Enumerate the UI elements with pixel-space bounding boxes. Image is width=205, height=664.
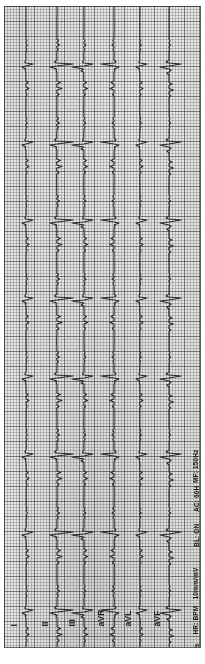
ecg-trace-avl [136,6,147,647]
setting-muscle-filter: MF: 150Hz [193,450,200,484]
setting-baseline-filter: BL: ON [193,524,200,547]
lead-label-iii: III [68,619,77,627]
setting-ac-filter: AC: 60H [193,486,200,512]
ecg-trace-avf [160,6,181,647]
setting-gain: 10mm/mV [193,568,200,600]
lead-label-avl: aVL [124,610,133,626]
ecg-waveform-svg [4,6,201,648]
ecg-strip: IIIIIIaVRaVLaVF 25mm/sHR: BPM10mm/mVBL: … [4,6,201,648]
lead-label-avf: aVF [153,610,162,626]
ecg-trace-avr [101,6,119,647]
ecg-trace-i [22,6,33,647]
settings-strip: 25mm/sHR: BPM10mm/mVBL: ONAC: 60HMF: 150… [187,416,200,646]
setting-heart-rate: HR: BPM [193,606,200,635]
ecg-trace-iii [72,6,93,647]
lead-label-ii: II [41,621,50,626]
ecg-traces-layer [4,6,201,648]
lead-label-avr: aVR [97,609,106,626]
page-bottom-margin [0,650,205,664]
lead-label-i: I [10,624,19,627]
setting-paper-speed: 25mm/s [193,644,200,648]
ecg-page: IIIIIIaVRaVLaVF 25mm/sHR: BPM10mm/mVBL: … [0,0,205,664]
ecg-trace-ii [50,6,73,647]
